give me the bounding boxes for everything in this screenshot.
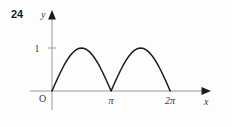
y-axis-label: y [40,9,46,20]
x-tick-label-pi: π [108,95,114,106]
math-figure: 24 y x O 1 π 2π [0,0,232,127]
origin-label: O [39,93,46,104]
y-tick-label-1: 1 [35,43,40,54]
y-axis-arrow-icon [48,10,56,20]
x-axis-label: x [203,96,209,107]
x-axis-arrow-icon [202,87,212,95]
plot-canvas: y x O 1 π 2π [0,0,232,127]
curve-abs-sin-x [52,48,170,91]
x-tick-label-2pi: 2π [165,95,176,106]
